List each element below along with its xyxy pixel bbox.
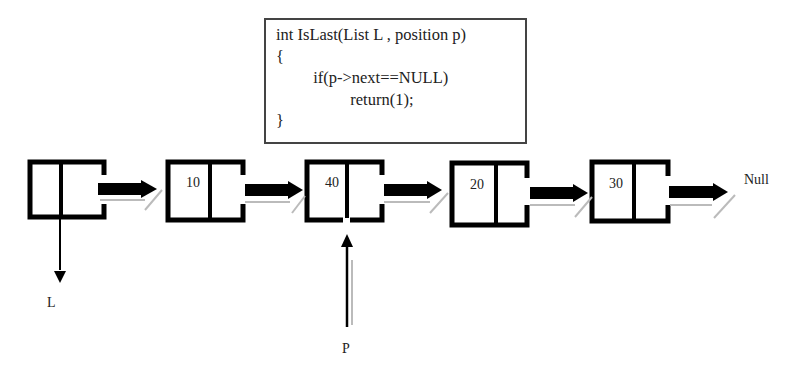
position-pointer-label: P [342,341,350,357]
next-arrow [245,181,303,199]
arrow-shadows [100,190,735,325]
node-value: 30 [609,176,623,192]
next-arrow [530,184,588,202]
node-20 [452,163,527,225]
node-header [30,162,104,217]
next-arrow [384,181,442,199]
list-pointer-arrow [54,217,66,283]
node-30 [592,162,668,221]
next-arrow [98,180,157,198]
node-value: 10 [186,175,200,191]
list-pointer-label: L [47,295,56,311]
node-10 [168,162,243,220]
null-label: Null [744,172,769,188]
node-40 [307,162,382,220]
null-arrow [669,183,728,201]
node-value: 20 [470,177,484,193]
node-value: 40 [325,175,339,191]
linked-list-diagram [0,0,797,373]
